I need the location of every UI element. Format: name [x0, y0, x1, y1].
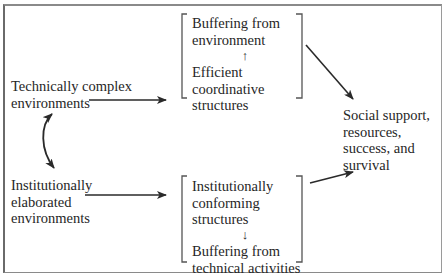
arrow-top-box-to-outcome: [306, 45, 353, 99]
bidirectional-curved-arrow: [43, 114, 54, 168]
top-box-right-bracket: [296, 14, 302, 98]
bottom-box-left-bracket: [182, 176, 187, 262]
top-box-left-bracket: [182, 14, 187, 98]
diagram-connectors: [0, 0, 448, 278]
arrow-bottom-box-to-outcome: [310, 172, 353, 183]
bottom-box-right-bracket: [296, 176, 302, 262]
